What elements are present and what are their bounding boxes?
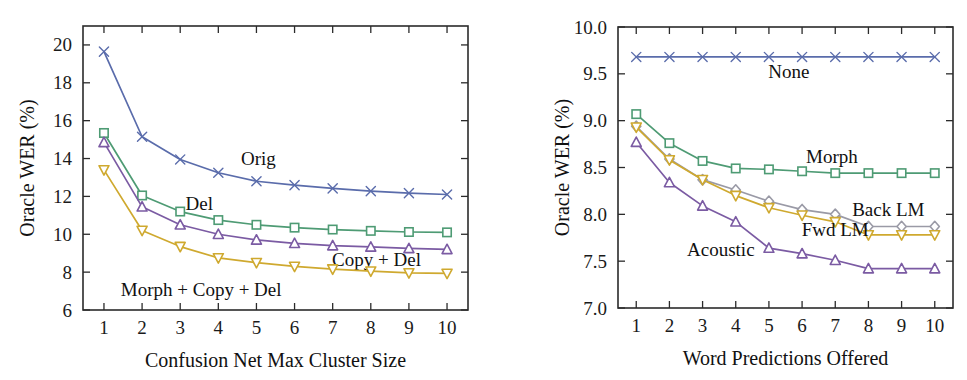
chart-right-content: 7.07.58.08.59.09.510.012345678910Word Pr… (551, 17, 953, 370)
marker-square (931, 169, 939, 177)
x-tick-label: 10 (925, 315, 944, 336)
series-fwd-lm (631, 123, 940, 240)
y-tick-label: 7.0 (583, 298, 607, 319)
chart-left-content: 6810121416182012345678910Confusion Net M… (16, 26, 468, 371)
chart-panel-left: 6810121416182012345678910Confusion Net M… (0, 0, 484, 380)
y-tick-label: 20 (53, 34, 72, 55)
x-tick-label: 8 (864, 315, 874, 336)
y-tick-label: 7.5 (583, 251, 607, 272)
marker-triangle-up (698, 201, 708, 210)
marker-square (765, 165, 773, 173)
marker-square (798, 167, 806, 175)
series-annotation-morph: Morph (806, 146, 858, 167)
marker-x (99, 47, 108, 56)
chart-svg-left: 6810121416182012345678910Confusion Net M… (0, 0, 484, 380)
y-tick-label: 8.5 (583, 157, 607, 178)
x-tick-label: 2 (137, 317, 147, 338)
y-axis-title: Oracle WER (%) (551, 99, 574, 236)
marker-x (176, 155, 185, 164)
marker-square (632, 110, 640, 118)
x-tick-label: 1 (631, 315, 641, 336)
marker-square (367, 227, 375, 235)
y-axis-title: Oracle WER (%) (16, 99, 39, 236)
x-tick-label: 6 (290, 317, 300, 338)
x-tick-label: 10 (438, 317, 457, 338)
series-annotation-acoustic: Acoustic (687, 239, 755, 260)
y-tick-label: 10 (53, 224, 72, 245)
x-tick-label: 9 (897, 315, 907, 336)
chart-svg-right: 7.07.58.08.59.09.510.012345678910Word Pr… (483, 0, 967, 380)
marker-square (405, 228, 413, 236)
marker-square (897, 169, 905, 177)
marker-square (100, 129, 108, 137)
series-annotation-del: Del (186, 193, 213, 214)
x-tick-label: 9 (404, 317, 414, 338)
chart-panel-right: 7.07.58.08.59.09.510.012345678910Word Pr… (483, 0, 967, 380)
marker-square (443, 228, 451, 236)
y-tick-label: 14 (53, 148, 73, 169)
marker-square (252, 221, 260, 229)
marker-square (732, 164, 740, 172)
x-tick-label: 8 (366, 317, 376, 338)
y-tick-label: 16 (53, 110, 72, 131)
x-tick-label: 7 (831, 315, 841, 336)
marker-triangle-up (731, 217, 741, 226)
y-tick-label: 9.0 (583, 110, 607, 131)
marker-triangle-up (137, 202, 147, 211)
marker-x (137, 132, 146, 141)
figure-root: 6810121416182012345678910Confusion Net M… (0, 0, 967, 380)
x-tick-label: 5 (764, 315, 774, 336)
series-line (636, 114, 935, 173)
x-tick-label: 6 (797, 315, 807, 336)
series-morph (632, 110, 939, 177)
x-tick-label: 7 (328, 317, 338, 338)
y-tick-label: 18 (53, 72, 72, 93)
series-annotation-fwd-lm: Fwd LM (802, 219, 869, 240)
y-tick-label: 10.0 (574, 17, 607, 38)
x-tick-label: 3 (175, 317, 185, 338)
series-line (104, 52, 447, 195)
marker-triangle-up (175, 220, 185, 229)
x-tick-label: 1 (99, 317, 109, 338)
marker-square (138, 191, 146, 199)
x-tick-label: 5 (252, 317, 262, 338)
marker-triangle-up (631, 137, 641, 146)
marker-triangle-down (99, 166, 109, 175)
y-tick-label: 12 (53, 186, 72, 207)
marker-square (290, 223, 298, 231)
series-annotation-none: None (768, 61, 809, 82)
x-tick-label: 4 (731, 315, 741, 336)
marker-square (864, 169, 872, 177)
series-annotation-morph-copy-del: Morph + Copy + Del (121, 279, 282, 300)
x-axis-title: Confusion Net Max Cluster Size (145, 349, 406, 371)
y-tick-label: 9.5 (583, 63, 607, 84)
marker-triangle-down (137, 226, 147, 235)
y-tick-label: 8 (63, 262, 73, 283)
series-orig (99, 47, 451, 199)
marker-square (698, 157, 706, 165)
marker-square (214, 216, 222, 224)
series-annotation-back-lm: Back LM (852, 199, 924, 220)
x-tick-label: 4 (214, 317, 224, 338)
marker-square (831, 169, 839, 177)
y-tick-label: 8.0 (583, 204, 607, 225)
x-tick-label: 2 (665, 315, 675, 336)
y-tick-label: 6 (63, 300, 73, 321)
x-tick-label: 3 (698, 315, 708, 336)
marker-square (328, 225, 336, 233)
marker-square (665, 139, 673, 147)
x-axis-title: Word Predictions Offered (683, 347, 889, 369)
series-annotation-orig: Orig (241, 148, 276, 169)
marker-square (176, 207, 184, 215)
